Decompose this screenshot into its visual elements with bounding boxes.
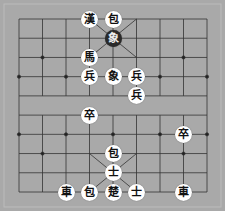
piece[interactable]: 士 — [105, 164, 122, 181]
piece[interactable]: 楚 — [105, 184, 122, 201]
piece[interactable]: 象 — [105, 30, 122, 47]
piece[interactable]: 包 — [105, 11, 122, 28]
piece[interactable]: 車 — [175, 184, 192, 201]
piece[interactable]: 包 — [105, 145, 122, 162]
piece[interactable]: 漢 — [81, 11, 98, 28]
piece[interactable]: 卒 — [175, 126, 192, 143]
piece[interactable]: 象 — [105, 68, 122, 85]
piece[interactable]: 包 — [81, 184, 98, 201]
piece[interactable]: 車 — [58, 184, 75, 201]
piece[interactable]: 馬 — [81, 49, 98, 66]
piece[interactable]: 士 — [128, 184, 145, 201]
piece[interactable]: 卒 — [81, 107, 98, 124]
